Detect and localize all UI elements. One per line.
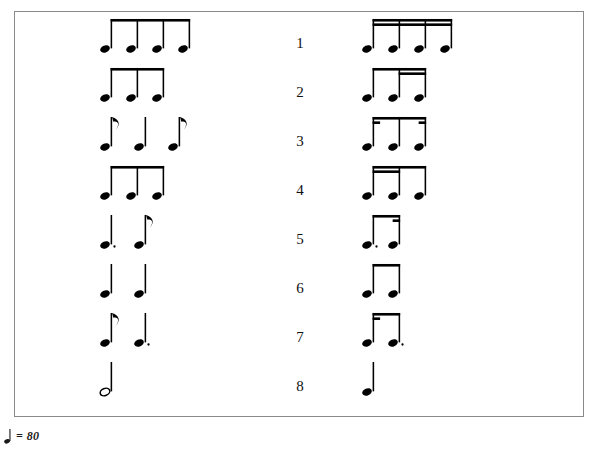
rhythm-pattern-right[interactable] [361,167,541,213]
rhythm-row: 6 [15,265,583,311]
tempo-text: = 80 [16,429,39,444]
row-number: 3 [280,118,320,164]
row-number: 7 [280,314,320,360]
notation-group-right [361,118,541,164]
rhythm-pattern-left[interactable] [99,265,269,311]
rhythm-row: 5 [15,216,583,262]
rhythm-pattern-left[interactable] [99,363,269,409]
rhythm-pattern-right[interactable] [361,363,541,409]
notation-group-left [99,314,269,360]
notation-group-right [361,69,541,115]
notation-group-right [361,216,541,262]
row-number: 5 [280,216,320,262]
notation-group-right [361,20,541,66]
row-number: 6 [280,265,320,311]
rhythm-pattern-left[interactable] [99,118,269,164]
tempo-marking: = 80 [4,426,39,446]
rhythm-row: 8 [15,363,583,409]
rhythm-pattern-right[interactable] [361,20,541,66]
notation-group-left [99,363,269,409]
notation-group-left [99,265,269,311]
rhythm-pattern-left[interactable] [99,167,269,213]
notation-group-right [361,314,541,360]
notation-group-left [99,20,269,66]
notation-group-right [361,265,541,311]
rhythm-pattern-left[interactable] [99,20,269,66]
notation-group-left [99,69,269,115]
rhythm-pattern-left[interactable] [99,216,269,262]
notation-group-right [361,363,541,409]
rhythm-pattern-left[interactable] [99,69,269,115]
quarter-note-icon [4,428,13,445]
rhythm-pattern-right[interactable] [361,118,541,164]
rhythm-row: 4 [15,167,583,213]
notation-group-left [99,167,269,213]
worksheet-panel: 12345678 [14,11,584,417]
rhythm-row: 1 [15,20,583,66]
rhythm-pattern-right[interactable] [361,314,541,360]
notation-group-left [99,118,269,164]
rhythm-row: 2 [15,69,583,115]
rhythm-pattern-right[interactable] [361,69,541,115]
rhythm-pattern-right[interactable] [361,216,541,262]
rhythm-row-list: 12345678 [15,12,583,416]
rhythm-row: 7 [15,314,583,360]
rhythm-row: 3 [15,118,583,164]
rhythm-pattern-left[interactable] [99,314,269,360]
row-number: 8 [280,363,320,409]
rhythm-pattern-right[interactable] [361,265,541,311]
notation-group-left [99,216,269,262]
row-number: 1 [280,20,320,66]
notation-group-right [361,167,541,213]
row-number: 2 [280,69,320,115]
row-number: 4 [280,167,320,213]
